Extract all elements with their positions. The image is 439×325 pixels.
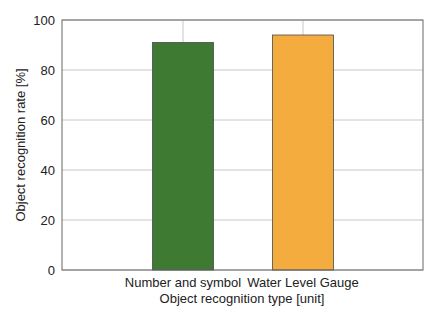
y-tick-label: 80 xyxy=(41,63,55,78)
plot-frame xyxy=(62,20,423,270)
y-tick-label: 0 xyxy=(48,263,55,278)
y-tick-label: 40 xyxy=(41,163,55,178)
x-tick-label: Number and symbol xyxy=(125,275,241,290)
x-axis-ticks: Number and symbolWater Level Gauge xyxy=(125,275,359,290)
y-tick-label: 100 xyxy=(33,13,55,28)
x-axis-label: Object recognition type [unit] xyxy=(160,291,325,306)
bar-chart: 020406080100 Number and symbolWater Leve… xyxy=(0,0,439,325)
y-tick-label: 20 xyxy=(41,213,55,228)
bar-1 xyxy=(273,35,334,270)
gridlines xyxy=(62,20,423,270)
x-tick-label: Water Level Gauge xyxy=(247,275,359,290)
y-tick-label: 60 xyxy=(41,113,55,128)
bar-0 xyxy=(153,43,214,271)
y-axis-label: Object recognition rate [%] xyxy=(13,68,28,221)
y-axis-ticks: 020406080100 xyxy=(33,13,55,278)
